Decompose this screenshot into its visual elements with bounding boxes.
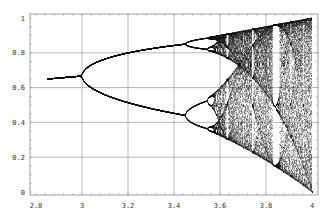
x-tick-label: 2.8	[30, 202, 43, 210]
attractor-path	[48, 18, 313, 192]
grid-lines	[30, 14, 318, 195]
attractor-points	[48, 18, 313, 192]
x-tick-label: 3.4	[168, 202, 181, 210]
x-tick-label: 3.8	[260, 202, 273, 210]
y-tick-label: 0.6	[12, 84, 25, 92]
x-tick-label: 3.6	[214, 202, 227, 210]
y-tick-label: 0.4	[12, 119, 25, 127]
y-tick-label: 0	[21, 189, 25, 197]
y-tick-label: 0.8	[12, 49, 25, 57]
x-tick-label: 4	[310, 202, 314, 210]
x-tick-label: 3.2	[122, 202, 135, 210]
bifurcation-chart: 2.833.23.43.63.84 00.20.40.60.81	[0, 0, 333, 217]
y-axis-labels: 00.20.40.60.81	[12, 15, 25, 197]
y-tick-label: 0.2	[12, 154, 25, 162]
x-tick-label: 3	[80, 202, 84, 210]
y-tick-label: 1	[21, 15, 25, 23]
x-axis-labels: 2.833.23.43.63.84	[30, 202, 314, 210]
